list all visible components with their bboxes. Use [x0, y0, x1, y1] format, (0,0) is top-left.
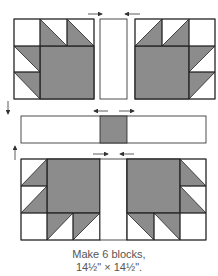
paw-unit-bottom-left	[21, 159, 100, 240]
caption-line-2: 14½" × 14½".	[0, 261, 218, 274]
paw-unit-bottom-right	[127, 159, 206, 240]
paw-unit-top-right	[135, 19, 215, 99]
sashing-strip-bottom	[100, 159, 127, 240]
center-square	[100, 116, 127, 143]
caption-line-1: Make 6 blocks,	[0, 248, 218, 261]
sashing-strip-top	[100, 19, 127, 99]
sashing-row-middle	[21, 116, 206, 143]
block-assembly-diagram	[0, 0, 218, 276]
paw-unit-top-left	[14, 19, 94, 99]
